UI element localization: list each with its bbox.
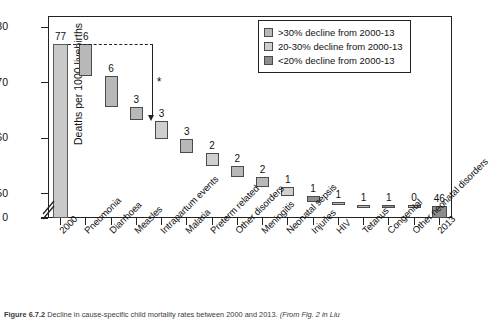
bar-value-label: 3: [173, 126, 201, 137]
y-tick-label: 50: [0, 187, 8, 199]
bar-pneumonia: [79, 44, 92, 76]
bar-value-label: 2: [198, 140, 226, 151]
annotation-asterisk: *: [157, 76, 162, 88]
bar-measles: [130, 107, 143, 121]
caption-source: (From Fig. 2 in Liu: [280, 310, 340, 319]
legend-swatch-icon: [264, 56, 273, 65]
caption-text: Decline in cause-specific child mortalit…: [47, 310, 277, 319]
legend-swatch-icon: [264, 42, 273, 51]
y-tick-mark: [41, 193, 48, 194]
bar-value-label: 1: [350, 192, 378, 203]
caption-number: Figure 6.7.2: [4, 310, 45, 319]
legend-item-0: >30% decline from 2000-13: [264, 26, 403, 39]
bar-intrapartum-events: [155, 121, 168, 139]
bar-meningitis: [256, 177, 269, 187]
legend-item-2: <20% decline from 2000-13: [264, 54, 403, 67]
legend: >30% decline from 2000-13 20-30% decline…: [258, 20, 411, 73]
y-tick-mark: [41, 82, 48, 83]
bar-value-label: 77: [47, 31, 75, 42]
annotation-dashed-line: [68, 44, 153, 45]
bar-diarrhoea: [105, 76, 118, 107]
bar-preterm-related: [206, 153, 219, 166]
bar-tetanus: [357, 205, 370, 208]
bar-2000: [53, 44, 68, 218]
y-tick-mark: [41, 217, 48, 218]
bar-value-label: 2: [223, 153, 251, 164]
annotation-arrow-stem: [152, 44, 153, 116]
bar-other-disorders: [231, 166, 244, 178]
y-tick-mark: [41, 138, 48, 139]
bar-hiv: [332, 202, 345, 205]
legend-swatch-icon: [264, 28, 273, 37]
annotation-arrow-head: [148, 115, 154, 121]
figure-caption: Figure 6.7.2 Decline in cause-specific c…: [4, 310, 456, 319]
bar-malaria: [180, 139, 193, 153]
y-axis-title: Deaths per 1000 livebirths: [72, 0, 84, 174]
bar-value-label: 2: [249, 164, 277, 175]
bar-value-label: 3: [122, 94, 150, 105]
legend-label: <20% decline from 2000-13: [278, 55, 394, 66]
bar-value-label: 6: [97, 63, 125, 74]
y-tick-label: 80: [0, 20, 8, 32]
legend-label: 20-30% decline from 2000-13: [278, 41, 403, 52]
y-tick-label: 70: [0, 76, 8, 88]
bar-value-label: 6: [72, 31, 100, 42]
legend-label: >30% decline from 2000-13: [278, 27, 394, 38]
y-tick-mark: [41, 27, 48, 28]
y-tick-label: 0: [0, 211, 8, 223]
legend-item-1: 20-30% decline from 2000-13: [264, 40, 403, 53]
y-tick-label: 60: [0, 131, 8, 143]
bar-value-label: 1: [375, 192, 403, 203]
